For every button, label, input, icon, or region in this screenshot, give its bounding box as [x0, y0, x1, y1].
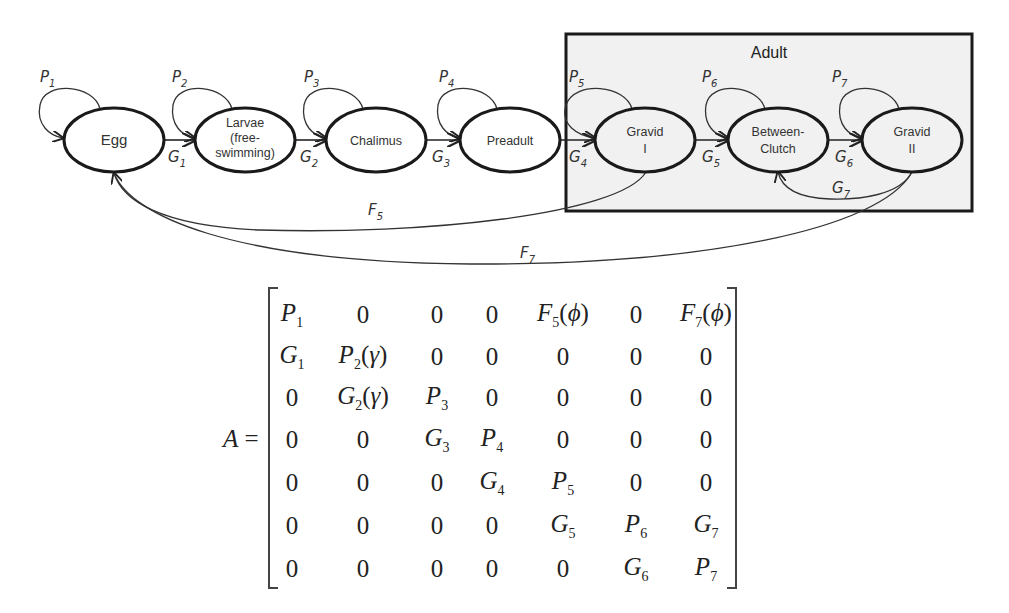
matrix-cell: 0	[630, 469, 643, 497]
matrix-cell: 0	[431, 343, 444, 371]
matrix-cell: F7(ϕ)	[680, 299, 732, 331]
matrix-cell: 0	[286, 384, 299, 412]
matrix-cell: P3	[426, 382, 448, 414]
matrix-cell: 0	[630, 343, 643, 371]
matrix-cell: G1	[279, 341, 304, 373]
matrix-cell: G2(γ)	[337, 382, 389, 414]
matrix-cell: 0	[286, 512, 299, 540]
matrix-cell: G7	[693, 510, 718, 542]
matrix-cell: G4	[479, 467, 504, 499]
matrix-cell: G5	[550, 510, 575, 542]
matrix-cell: P4	[481, 424, 503, 456]
matrix-cell: P2(γ)	[339, 341, 388, 373]
matrix-cell: 0	[700, 426, 713, 454]
matrix-cell: 0	[486, 512, 499, 540]
matrix-cell: P5	[552, 467, 574, 499]
matrix-cell: 0	[431, 512, 444, 540]
matrix-cell: 0	[431, 301, 444, 329]
matrix-cell: 0	[357, 301, 370, 329]
matrix-lhs: A =	[223, 425, 259, 453]
matrix-cell: 0	[486, 384, 499, 412]
matrix-right-bracket	[727, 287, 737, 589]
matrix-cell: 0	[431, 555, 444, 583]
matrix-cell: 0	[357, 512, 370, 540]
matrix-cell: 0	[700, 469, 713, 497]
matrix-cell: 0	[486, 301, 499, 329]
matrix-cell: P7	[695, 553, 717, 585]
matrix-cell: 0	[630, 384, 643, 412]
projection-matrix: A = P1000F5(ϕ)0F7(ϕ)G1P2(γ)000000G2(γ)P3…	[0, 0, 1009, 613]
matrix-cell: P6	[625, 510, 647, 542]
matrix-cell: 0	[357, 555, 370, 583]
matrix-cell: 0	[431, 469, 444, 497]
matrix-cell: 0	[557, 343, 570, 371]
matrix-cell: F5(ϕ)	[537, 299, 589, 331]
matrix-cell: 0	[630, 426, 643, 454]
matrix-cell: 0	[286, 555, 299, 583]
matrix-cell: G3	[424, 424, 449, 456]
matrix-cell: 0	[357, 426, 370, 454]
matrix-cell: 0	[700, 343, 713, 371]
matrix-cell: 0	[486, 343, 499, 371]
matrix-left-bracket	[268, 287, 278, 589]
matrix-cell: 0	[486, 555, 499, 583]
matrix-cell: 0	[557, 384, 570, 412]
matrix-cell: 0	[557, 426, 570, 454]
matrix-cell: 0	[286, 426, 299, 454]
matrix-cell: 0	[700, 384, 713, 412]
matrix-cell: 0	[286, 469, 299, 497]
matrix-cell: 0	[557, 555, 570, 583]
matrix-cell: 0	[630, 301, 643, 329]
matrix-cell: P1	[281, 299, 303, 331]
matrix-cell: 0	[357, 469, 370, 497]
matrix-cell: G6	[623, 553, 648, 585]
